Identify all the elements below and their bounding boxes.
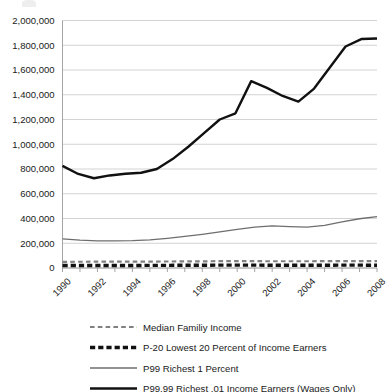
y-axis-tick-label: 400,000 xyxy=(20,213,54,224)
x-axis-tick-marks xyxy=(63,268,378,272)
y-axis-tick-label: 1,800,000 xyxy=(12,40,54,51)
x-axis-tick-label: 1992 xyxy=(85,276,108,299)
y-axis-tick-labels: 2,000,0001,800,0001,600,0001,400,0001,20… xyxy=(12,15,54,274)
y-axis-tick-label: 2,000,000 xyxy=(12,15,54,26)
x-axis-tick-label: 1990 xyxy=(50,276,73,299)
x-axis-tick-label: 2008 xyxy=(365,276,387,299)
income-percentile-line-chart: 2,000,0001,800,0001,600,0001,400,0001,20… xyxy=(0,0,387,392)
y-axis-tick-label: 200,000 xyxy=(20,238,54,249)
x-axis-tick-label: 2000 xyxy=(225,276,248,299)
legend-label-3: P99.99 Richest .01 Income Earners (Wages… xyxy=(143,383,355,392)
data-series xyxy=(63,38,378,265)
legend-label-2: P99 Richest 1 Percent xyxy=(143,363,239,374)
y-axis-tick-label: 1,200,000 xyxy=(12,114,54,125)
y-axis-tick-label: 1,400,000 xyxy=(12,89,54,100)
legend-label-0: Median Familiy Income xyxy=(143,322,242,333)
y-axis-tick-label: 800,000 xyxy=(20,163,54,174)
x-axis-tick-labels: 1990199219941996199820002002200420062008 xyxy=(50,276,387,299)
y-axis-tick-label: 600,000 xyxy=(20,188,54,199)
gridlines xyxy=(63,21,378,269)
x-axis-tick-label: 2002 xyxy=(260,276,283,299)
series-line-0 xyxy=(63,261,378,262)
series-line-3 xyxy=(63,38,378,178)
series-line-2 xyxy=(63,217,378,241)
x-axis-tick-label: 2006 xyxy=(330,276,353,299)
y-axis-tick-label: 1,000,000 xyxy=(12,139,54,150)
chart-legend: Median Familiy IncomeP-20 Lowest 20 Perc… xyxy=(90,322,355,392)
chart-canvas: 2,000,0001,800,0001,600,0001,400,0001,20… xyxy=(0,0,387,392)
x-axis-tick-label: 1998 xyxy=(190,276,213,299)
y-axis-tick-label: 0 xyxy=(49,262,54,273)
y-axis-tick-label: 1,600,000 xyxy=(12,64,54,75)
x-axis-tick-label: 1994 xyxy=(120,276,143,299)
legend-label-1: P-20 Lowest 20 Percent of Income Earners xyxy=(143,342,327,353)
x-axis-tick-label: 1996 xyxy=(155,276,178,299)
x-axis-tick-label: 2004 xyxy=(295,276,318,299)
